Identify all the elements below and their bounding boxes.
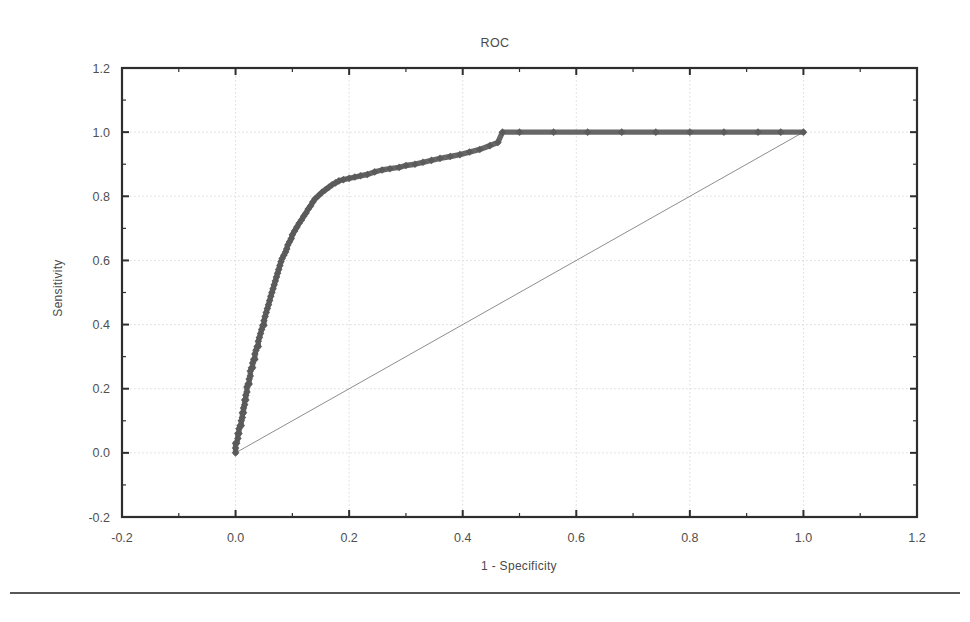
chart-title: ROC [481, 36, 510, 50]
x-tick-label: 1.0 [795, 531, 812, 545]
roc-chart-svg: ROC -0.20.00.20.40.60.81.01.2 -0.20.00.2… [0, 0, 970, 622]
figure-background [0, 0, 970, 622]
y-tick-label: 1.0 [93, 126, 110, 140]
y-tick-label: 0.6 [93, 254, 110, 268]
y-tick-label: 0.2 [93, 382, 110, 396]
y-tick-label: 0.4 [93, 318, 110, 332]
y-tick-label: 1.2 [93, 62, 110, 76]
x-axis-label: 1 - Specificity [481, 559, 557, 573]
roc-figure: ROC -0.20.00.20.40.60.81.01.2 -0.20.00.2… [0, 0, 970, 622]
y-tick-label: -0.2 [88, 511, 110, 525]
y-axis-label: Sensitivity [51, 259, 65, 316]
x-tick-label: 0.0 [227, 531, 244, 545]
y-tick-label: 0.0 [93, 446, 110, 460]
x-tick-label: 0.2 [340, 531, 357, 545]
x-tick-label: 0.6 [568, 531, 585, 545]
x-tick-label: -0.2 [111, 531, 133, 545]
x-tick-label: 0.8 [681, 531, 698, 545]
x-tick-label: 1.2 [908, 531, 925, 545]
x-tick-label: 0.4 [454, 531, 471, 545]
y-tick-label: 0.8 [93, 190, 110, 204]
